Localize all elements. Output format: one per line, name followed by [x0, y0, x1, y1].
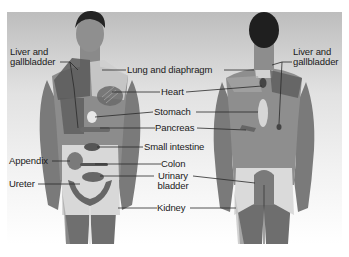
label-kidney: Kidney — [157, 203, 185, 213]
label-pancreas: Pancreas — [155, 123, 194, 133]
front-figure — [40, 11, 141, 244]
label-heart: Heart — [161, 87, 184, 97]
label-lung-diaphragm: Lung and diaphragm — [127, 65, 212, 75]
label-line: gallbladder — [293, 57, 349, 67]
referred-pain-diagram: Liver and gallbladder Lung and diaphragm… — [0, 0, 349, 257]
label-ureter: Ureter — [9, 179, 35, 189]
label-stomach: Stomach — [154, 107, 191, 117]
label-appendix: Appendix — [9, 156, 48, 166]
label-liver-gallbladder-back: Liver and gallbladder — [293, 47, 349, 67]
label-line: gallbladder — [10, 57, 72, 67]
label-line: bladder — [152, 181, 194, 191]
label-colon: Colon — [161, 159, 185, 169]
label-small-intestine: Small intestine — [144, 142, 204, 152]
label-urinary-bladder: Urinary bladder — [152, 171, 194, 191]
label-liver-gallbladder-front: Liver and gallbladder — [10, 47, 72, 67]
